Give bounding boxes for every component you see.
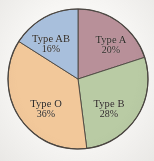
pie-slice-label-type-ab: Type AB 16% bbox=[22, 33, 80, 55]
pie-slice-label-type-o-value: 36% bbox=[20, 109, 72, 120]
pie-slice-label-type-ab-value: 16% bbox=[22, 44, 80, 55]
pie-slice-label-type-o: Type O 36% bbox=[20, 98, 72, 120]
pie-slice-label-type-a-value: 20% bbox=[88, 45, 134, 56]
pie-slice-label-type-b-value: 28% bbox=[86, 109, 132, 120]
pie-slice-label-type-b: Type B 28% bbox=[86, 98, 132, 120]
pie-slice-label-type-a: Type A 20% bbox=[88, 34, 134, 56]
pie-chart-graphic bbox=[0, 0, 154, 161]
pie-chart-screenshot: Type A 20% Type B 28% Type O 36% Type AB… bbox=[0, 0, 154, 161]
blood-type-pie-chart: Type A 20% Type B 28% Type O 36% Type AB… bbox=[0, 0, 154, 161]
